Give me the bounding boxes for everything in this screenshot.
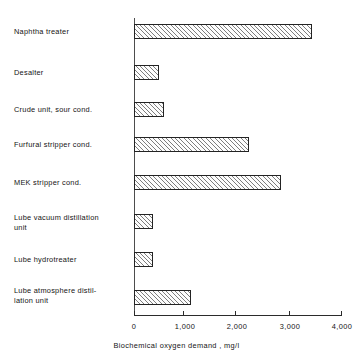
category-label-mek-stripper-cond: MEK stripper cond. bbox=[14, 178, 130, 188]
plot-area: 0 1,000 2,000 3,000 4,000 bbox=[134, 18, 344, 316]
x-axis-title: Biochemical oxygen demand , mg/l bbox=[0, 341, 353, 350]
bar-lube-vacuum-distillation-unit bbox=[134, 214, 153, 229]
x-tick-1000 bbox=[183, 311, 184, 315]
category-label-lube-atmosphere-distillation-unit: Lube atmosphere distil- lation unit bbox=[14, 286, 130, 305]
category-label-lube-hydrotreater: Lube hydrotreater bbox=[14, 255, 130, 265]
bar-naphtha-treater bbox=[134, 24, 312, 39]
x-axis-line bbox=[134, 315, 342, 316]
x-tick-4000 bbox=[341, 311, 342, 315]
x-tick-3000 bbox=[289, 311, 290, 315]
category-label-naphtha-treater: Naphtha treater bbox=[14, 27, 130, 37]
x-tick-label-3000: 3,000 bbox=[280, 322, 301, 331]
bar-crude-unit-sour-cond bbox=[134, 102, 164, 117]
x-tick-label-0: 0 bbox=[132, 322, 137, 331]
y-axis-line bbox=[134, 18, 135, 316]
bar-mek-stripper-cond bbox=[134, 175, 281, 190]
x-tick-0 bbox=[134, 311, 135, 315]
category-label-furfural-stripper-cond: Furfural stripper cond. bbox=[14, 140, 130, 150]
bar-desalter bbox=[134, 65, 159, 80]
x-tick-label-4000: 4,000 bbox=[332, 322, 353, 331]
bar-lube-hydrotreater bbox=[134, 252, 153, 267]
bar-furfural-stripper-cond bbox=[134, 137, 249, 152]
category-label-lube-vacuum-distillation-unit: Lube vacuum distillation unit bbox=[14, 213, 130, 232]
x-tick-2000 bbox=[235, 311, 236, 315]
bar-chart-figure: Naphtha treater Desalter Crude unit, sou… bbox=[0, 0, 353, 361]
x-tick-label-2000: 2,000 bbox=[227, 322, 248, 331]
x-tick-label-1000: 1,000 bbox=[175, 322, 196, 331]
bar-lube-atmosphere-distillation-unit bbox=[134, 290, 191, 305]
category-label-crude-unit-sour-cond: Crude unit, sour cond. bbox=[14, 105, 130, 115]
category-label-desalter: Desalter bbox=[14, 68, 130, 78]
